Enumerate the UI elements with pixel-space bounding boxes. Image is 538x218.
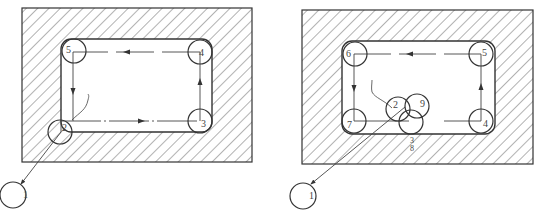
diagram-canvas: 1 2 3 4 5 xyxy=(0,0,538,218)
label-4: 4 xyxy=(199,47,204,58)
right-diagram: 1 2 9 4 5 6 7 3 8 xyxy=(290,10,533,209)
pocket-cavity xyxy=(342,41,495,134)
label-6: 6 xyxy=(346,48,351,59)
pocket-cavity xyxy=(61,39,212,132)
label-4: 4 xyxy=(483,118,488,129)
label-9: 9 xyxy=(420,98,425,109)
label-5: 5 xyxy=(482,47,487,58)
label-2: 2 xyxy=(62,122,67,133)
label-2: 2 xyxy=(393,99,398,110)
label-5: 5 xyxy=(66,44,71,55)
label-1: 1 xyxy=(23,189,28,200)
label-1: 1 xyxy=(309,190,314,201)
label-7: 7 xyxy=(347,119,352,130)
left-diagram: 1 2 3 4 5 xyxy=(0,8,252,208)
label-8: 8 xyxy=(410,144,414,153)
label-3: 3 xyxy=(201,118,206,129)
